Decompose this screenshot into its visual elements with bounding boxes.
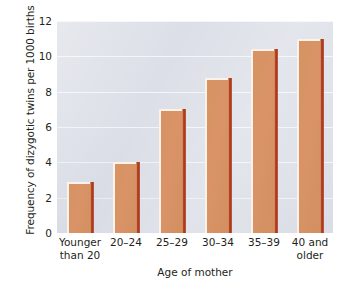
y-axis-tick-label: 6 [28, 122, 52, 132]
x-axis-title: Age of mother [57, 266, 333, 278]
gridline [57, 21, 333, 22]
gridline [57, 127, 333, 128]
bar-shadow [321, 39, 324, 233]
bar-shadow [137, 162, 140, 233]
bar [67, 182, 94, 233]
bar-shadow [229, 78, 232, 233]
y-axis-tick-label: 2 [28, 193, 52, 203]
gridline [57, 162, 333, 163]
x-axis-tick-label-line: than 20 [43, 249, 117, 262]
x-axis-tick-label-line: older [273, 249, 343, 262]
bar-shadow [91, 182, 94, 233]
bar [251, 49, 278, 233]
gridline [57, 56, 333, 57]
gridline [57, 92, 333, 93]
bar [113, 162, 140, 233]
y-axis-tick-label: 10 [28, 51, 52, 61]
y-axis-tick-label: 12 [28, 16, 52, 26]
bar [159, 109, 186, 233]
x-axis-tick-label: 40 andolder [273, 236, 343, 261]
bar-shadow [183, 109, 186, 233]
bar [297, 39, 324, 233]
bar-chart-figure: Frequency of dizygotic twins per 1000 bi… [0, 0, 343, 291]
x-axis-tick-label-line: 40 and [273, 236, 343, 249]
plot-area [57, 21, 333, 233]
y-axis-tick-label: 8 [28, 87, 52, 97]
bar-shadow [275, 49, 278, 233]
bar [205, 78, 232, 233]
gridline [57, 198, 333, 199]
y-axis-tick-label: 4 [28, 157, 52, 167]
